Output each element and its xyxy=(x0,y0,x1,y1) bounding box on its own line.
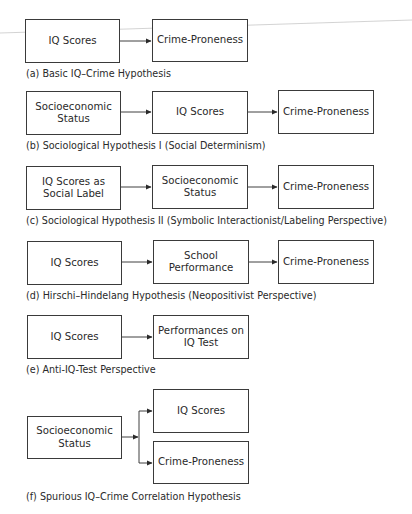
box-f-socioeconomic-status: Socioeconomic Status xyxy=(27,416,122,459)
caption-b: (b) Sociological Hypothesis I (Social De… xyxy=(26,140,266,152)
caption-a: (a) Basic IQ–Crime Hypothesis xyxy=(26,68,171,80)
box-c-crime-proneness: Crime-Proneness xyxy=(278,165,374,209)
box-e-iq-scores: IQ Scores xyxy=(27,315,122,359)
box-e-performances-iq-test: Performances on IQ Test xyxy=(153,315,249,359)
box-d-iq-scores: IQ Scores xyxy=(27,241,122,285)
box-b-crime-proneness: Crime-Proneness xyxy=(278,90,374,134)
box-d-crime-proneness: Crime-Proneness xyxy=(278,240,374,284)
box-a-iq-scores: IQ Scores xyxy=(25,19,120,63)
caption-f: (f) Spurious IQ–Crime Correlation Hypoth… xyxy=(26,491,241,503)
caption-d: (d) Hirschi–Hindelang Hypothesis (Neopos… xyxy=(26,290,317,302)
box-a-crime-proneness: Crime-Proneness xyxy=(152,19,248,62)
box-b-iq-scores: IQ Scores xyxy=(152,91,248,134)
box-f-iq-scores: IQ Scores xyxy=(153,389,249,433)
box-d-school-performance: School Performance xyxy=(153,240,249,284)
caption-c: (c) Sociological Hypothesis II (Symbolic… xyxy=(26,215,387,227)
box-f-crime-proneness: Crime-Proneness xyxy=(153,441,249,484)
box-b-socioeconomic-status: Socioeconomic Status xyxy=(26,91,121,135)
caption-e: (e) Anti-IQ-Test Perspective xyxy=(26,364,156,376)
box-c-socioeconomic-status: Socioeconomic Status xyxy=(152,165,248,209)
box-c-iq-social-label: IQ Scores as Social Label xyxy=(26,166,121,210)
